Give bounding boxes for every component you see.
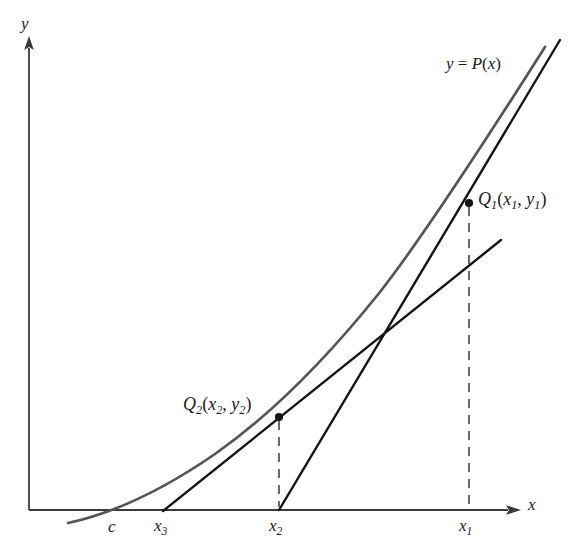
x2-letter: x	[269, 516, 277, 535]
curve-label-equals: =	[454, 54, 472, 73]
x-axis-arrowhead	[506, 505, 521, 515]
q1-close-paren: )	[540, 189, 546, 209]
x-tick-label-x1: x1	[459, 517, 472, 534]
q2-close-paren: )	[245, 394, 251, 414]
x-tick-label-x3: x3	[154, 517, 167, 534]
q2-x-letter: x	[208, 394, 216, 414]
q1-x-letter: x	[503, 189, 511, 209]
curve-label-p: P	[472, 54, 482, 73]
curve-equation-label: y = P(x)	[446, 55, 501, 72]
curve-y-equals-p-of-x	[68, 47, 545, 523]
tangent-line-at-q1	[279, 40, 560, 510]
x-tick-label-x2: x2	[269, 517, 282, 534]
point-label-q2: Q2(x2, y2)	[183, 395, 251, 413]
x-tick-label-c: c	[108, 518, 116, 535]
x3-letter: x	[154, 516, 162, 535]
curve-label-y: y	[446, 54, 454, 73]
q2-letter: Q	[183, 394, 196, 414]
point-label-q1: Q1(x1, y1)	[478, 190, 546, 208]
figure-canvas	[0, 0, 571, 553]
tangent-line-at-q2	[163, 240, 501, 511]
y-axis-label: y	[21, 15, 29, 32]
newton-method-figure: y x y = P(x) Q1(x1, y1) Q2(x2, y2) c x3 …	[0, 0, 571, 553]
x2-subscript: 2	[277, 525, 283, 538]
x-axis-label: x	[528, 496, 536, 513]
point-marker-q1	[465, 199, 473, 207]
y-axis-arrowhead	[24, 36, 34, 50]
q1-letter: Q	[478, 189, 491, 209]
x3-subscript: 3	[162, 525, 168, 538]
x1-subscript: 1	[467, 525, 473, 538]
point-marker-q2	[275, 413, 283, 421]
curve-label-close-paren: )	[495, 54, 501, 73]
q1-comma: ,	[517, 189, 526, 209]
x1-letter: x	[459, 516, 467, 535]
q2-comma: ,	[222, 394, 231, 414]
